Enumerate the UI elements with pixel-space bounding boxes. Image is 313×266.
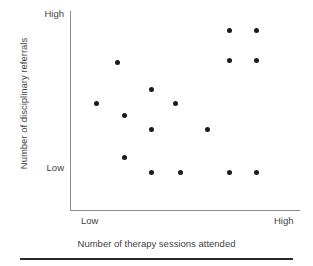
- x-axis-tick-label-low: Low: [81, 215, 98, 226]
- x-axis-tick-label-high: High: [274, 215, 294, 226]
- data-point: [94, 101, 99, 106]
- plot-area: [70, 11, 300, 211]
- y-axis-tick-label-low: Low: [47, 162, 64, 173]
- data-point: [227, 58, 232, 63]
- data-point: [149, 170, 154, 175]
- data-point: [122, 155, 127, 160]
- data-point: [122, 113, 127, 118]
- y-axis-title: Number of disciplinary referrals: [18, 9, 29, 199]
- data-point: [205, 127, 210, 132]
- bottom-rule: [20, 258, 293, 260]
- data-point: [115, 60, 120, 65]
- y-axis-tick-label-high: High: [44, 8, 64, 19]
- data-point: [254, 58, 259, 63]
- data-point: [254, 170, 259, 175]
- data-point: [173, 101, 178, 106]
- data-point: [149, 87, 154, 92]
- x-axis-title: Number of therapy sessions attended: [0, 238, 313, 249]
- data-point: [149, 127, 154, 132]
- scatter-plot-figure: High Low Low High Number of disciplinary…: [0, 0, 313, 266]
- data-point: [178, 170, 183, 175]
- data-point: [227, 28, 232, 33]
- data-point: [254, 28, 259, 33]
- data-point: [227, 170, 232, 175]
